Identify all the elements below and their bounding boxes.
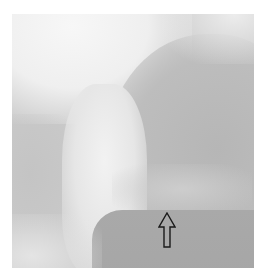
lower-left-bright-region xyxy=(12,214,102,268)
radiograph-image xyxy=(12,14,254,268)
figure-canvas xyxy=(0,0,261,275)
horizontal-band xyxy=(112,164,252,214)
arrow-up-icon xyxy=(158,212,176,248)
upper-right-lucency xyxy=(162,14,254,64)
